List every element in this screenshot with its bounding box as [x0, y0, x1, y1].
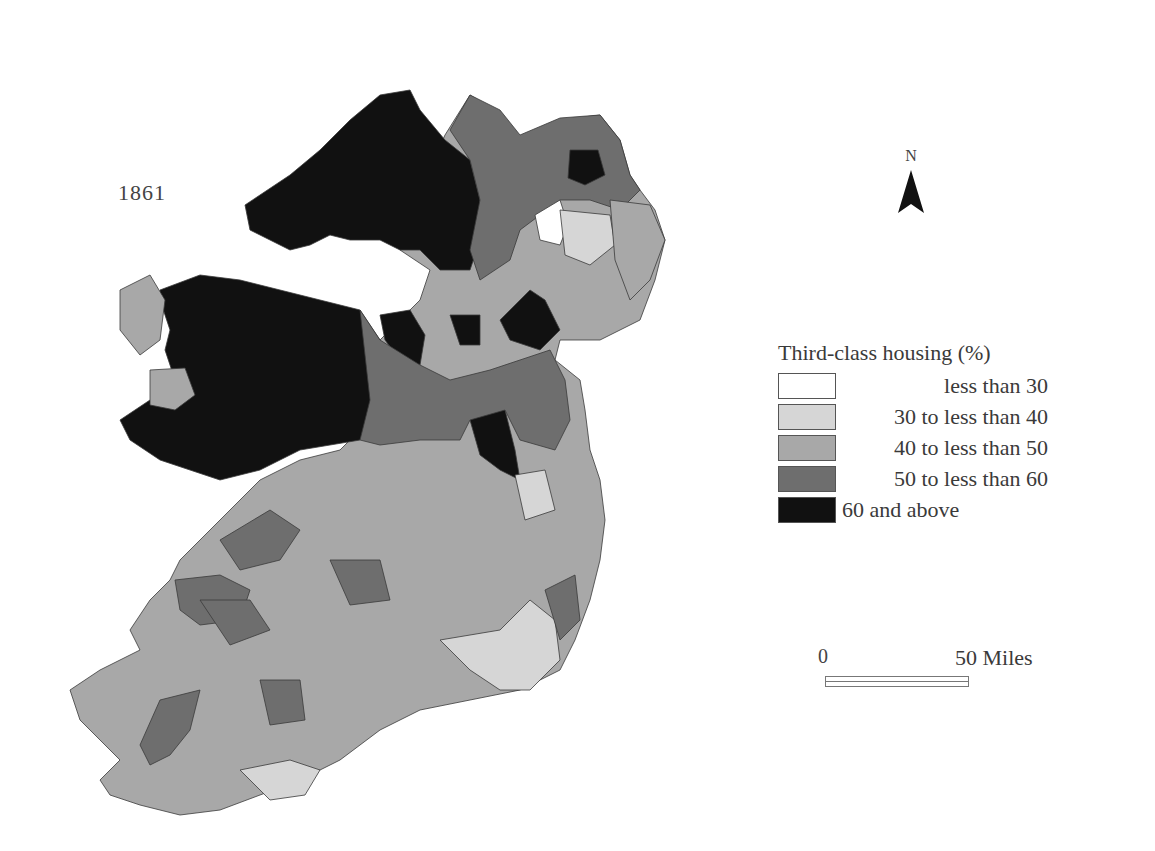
north-arrow: N: [896, 148, 926, 164]
region-achill: [120, 275, 165, 355]
legend-swatch: [778, 466, 836, 492]
legend-item: 60 and above: [778, 494, 1048, 525]
legend-swatch: [778, 497, 836, 523]
legend-label: 40 to less than 50: [836, 435, 1048, 461]
scale-start-label: 0: [818, 645, 828, 668]
legend-label: 30 to less than 40: [836, 404, 1048, 430]
legend-swatch: [778, 404, 836, 430]
legend-swatch: [778, 435, 836, 461]
legend-item: less than 30: [778, 370, 1048, 401]
legend-item: 30 to less than 40: [778, 401, 1048, 432]
legend-title: Third-class housing (%): [778, 340, 1048, 366]
region-donegal: [245, 90, 480, 270]
north-label: N: [896, 148, 926, 164]
legend-swatch: [778, 373, 836, 399]
legend-label: less than 30: [836, 373, 1048, 399]
scale-bar-graphic: [825, 676, 969, 687]
scale-end-label: 50 Miles: [955, 645, 1033, 671]
legend-label: 50 to less than 60: [836, 466, 1048, 492]
north-arrow-shape: [898, 170, 924, 213]
map-year-label: 1861: [118, 180, 166, 206]
legend-item: 50 to less than 60: [778, 463, 1048, 494]
legend-label: 60 and above: [836, 497, 959, 523]
map-legend: Third-class housing (%) less than 30 30 …: [778, 340, 1048, 525]
legend-item: 40 to less than 50: [778, 432, 1048, 463]
